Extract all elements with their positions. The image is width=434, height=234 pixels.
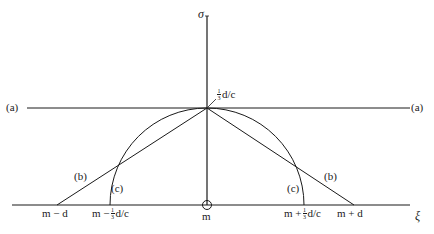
line-b-left <box>57 108 207 205</box>
apex-label: 13d/c <box>216 89 235 102</box>
tick-m: m <box>202 211 211 222</box>
tick-m-plus-third: m +13d/c <box>284 208 321 221</box>
apex-fraction: 13 <box>217 88 221 101</box>
apex-suffix: d/c <box>222 88 235 100</box>
label-a-right: (a) <box>411 102 423 113</box>
tick-m-plus-d: m + d <box>337 208 363 219</box>
tick-m-minus-third: m −13d/c <box>92 208 129 221</box>
label-c-left: (c) <box>111 183 123 194</box>
sigma-label: σ <box>198 8 204 20</box>
diagram-canvas <box>0 0 434 234</box>
xi-label: ξ <box>415 210 420 222</box>
label-b-left: (b) <box>74 171 87 182</box>
label-b-right: (b) <box>324 171 337 182</box>
label-a-left: (a) <box>6 102 18 113</box>
line-b-right <box>207 108 354 205</box>
apex-leader <box>208 99 216 107</box>
label-c-right: (c) <box>287 183 299 194</box>
tick-m-minus-d: m − d <box>42 208 68 219</box>
